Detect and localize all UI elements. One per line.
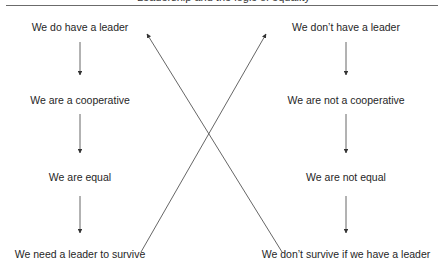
cross-arrow-dont-survive-to-do-have (147, 34, 282, 252)
diagram-arrows (0, 0, 447, 272)
cross-arrow-need-to-dont-have (141, 34, 266, 252)
right-node-3: We are not equal (306, 171, 386, 183)
right-node-2: We are not a cooperative (287, 94, 404, 106)
left-node-4: We need a leader to survive (15, 248, 146, 260)
left-node-1: We do have a leader (32, 21, 129, 33)
left-node-3: We are equal (49, 171, 111, 183)
left-node-2: We are a cooperative (30, 94, 130, 106)
right-node-1: We don’t have a leader (292, 21, 400, 33)
right-node-4: We don’t survive if we have a leader (262, 248, 430, 260)
